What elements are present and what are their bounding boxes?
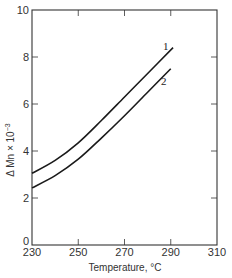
x-tick-label: 290	[162, 246, 180, 258]
chart: 2302502702903100246810 1 2 Temperature, …	[0, 0, 232, 278]
y-axis-title-text: Δ Mn × 10	[5, 131, 16, 177]
curve-label-2: 2	[161, 75, 167, 87]
plot-border	[32, 10, 217, 245]
x-axis-title: Temperature, °C	[89, 262, 162, 273]
curve-1	[32, 48, 173, 174]
y-tick-label: 4	[23, 145, 29, 157]
axis-tick-labels: 2302502702903100246810	[17, 4, 226, 258]
x-tick-label: 250	[69, 246, 87, 258]
curve-2	[32, 69, 171, 188]
plot-frame	[32, 10, 217, 245]
data-curves	[32, 48, 173, 188]
x-tick-label: 270	[115, 246, 133, 258]
y-axis-title: Δ Mn × 10−3	[4, 123, 16, 176]
y-tick-label: 2	[23, 192, 29, 204]
y-axis-title-exponent: −3	[4, 123, 11, 131]
y-tick-label: 0	[23, 235, 29, 247]
axis-ticks	[32, 10, 217, 245]
x-tick-label: 310	[208, 246, 226, 258]
y-tick-label: 8	[23, 51, 29, 63]
y-tick-label: 6	[23, 98, 29, 110]
x-tick-label: 230	[23, 246, 41, 258]
curve-label-1: 1	[163, 40, 169, 52]
y-tick-label: 10	[17, 4, 29, 16]
